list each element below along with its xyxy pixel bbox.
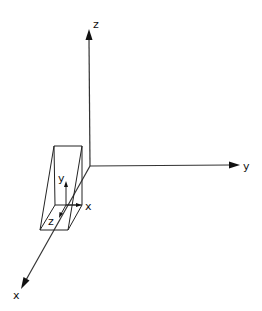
world-y-axis: y [90, 160, 250, 173]
local-z-label: z [48, 215, 54, 228]
local-y-label: y [58, 172, 65, 185]
arrowhead-icon [21, 277, 30, 289]
world-z-label: z [93, 18, 99, 31]
world-y-label: y [243, 160, 250, 173]
world-axes: z y x [13, 18, 250, 302]
arrowhead-icon [86, 29, 93, 40]
local-y-axis: y [58, 172, 68, 205]
arrowhead-icon [229, 162, 240, 169]
world-x-label: x [13, 289, 20, 302]
arrowhead-icon [64, 181, 68, 187]
world-x-axis: x [13, 166, 90, 302]
local-x-label: x [85, 200, 92, 213]
world-z-axis: z [86, 18, 100, 166]
coordinate-diagram: z y x y [0, 0, 262, 311]
